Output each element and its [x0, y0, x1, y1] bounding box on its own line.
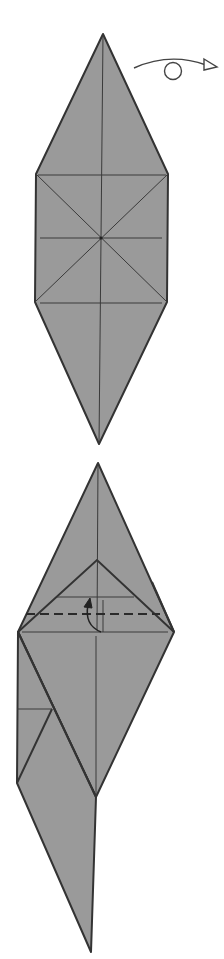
origami-diagram: [0, 0, 224, 959]
step-2-figure: [17, 463, 174, 952]
step-1-figure: [35, 34, 168, 444]
step-1-center-point: [99, 236, 102, 239]
turn-over-icon: [134, 59, 217, 80]
